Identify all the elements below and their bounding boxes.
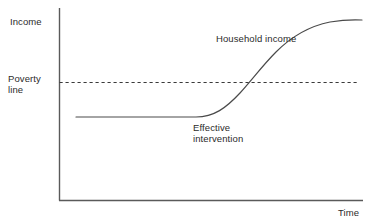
- chart-canvas: [0, 0, 378, 223]
- household-income-series-label: Household income: [216, 33, 296, 44]
- income-over-time-chart: Income Poverty line Household income Eff…: [0, 0, 378, 223]
- x-axis-title: Time: [338, 207, 359, 218]
- y-axis-title: Income: [10, 16, 42, 27]
- poverty-line-axis-label: Poverty line: [8, 73, 55, 95]
- effective-intervention-annotation: Effective intervention: [193, 122, 243, 144]
